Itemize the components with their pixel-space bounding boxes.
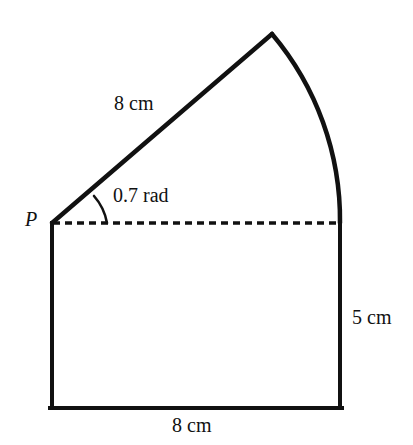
slant-length-label: 8 cm bbox=[114, 93, 153, 113]
sector-arc bbox=[272, 34, 340, 223]
angle-label: 0.7 rad bbox=[113, 185, 169, 205]
right-side-length-label: 5 cm bbox=[352, 307, 391, 327]
angle-arc-indicator bbox=[94, 196, 107, 223]
figure-canvas bbox=[0, 0, 413, 445]
vertex-label-p: P bbox=[25, 209, 37, 229]
base-length-label: 8 cm bbox=[172, 415, 211, 435]
geometry-figure: P 8 cm 0.7 rad 5 cm 8 cm bbox=[0, 0, 413, 445]
